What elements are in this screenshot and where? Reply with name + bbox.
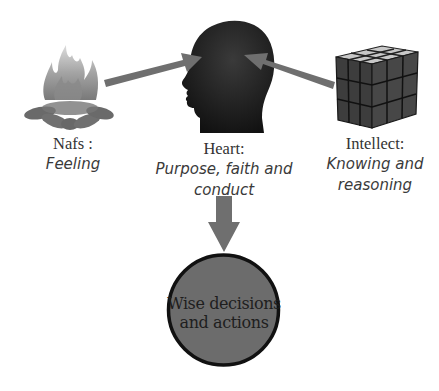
rubiks-cube-icon [336,46,418,128]
outcome-label: Wise decisions and actions [167,294,281,332]
diagram-canvas: Nafs : Feeling Heart: Purpose, faith and… [0,0,439,391]
heart-subtitle-line2: conduct [154,180,294,201]
heart-subtitle-line1: Purpose, faith and [154,159,294,180]
outcome-line1: Wise decisions [167,294,281,313]
outcome-line2: and actions [167,313,281,332]
nafs-subtitle: Feeling [23,154,123,175]
heart-title: Heart: [154,139,294,159]
intellect-subtitle-line2: reasoning [320,175,430,196]
intellect-title: Intellect: [320,134,430,154]
arrow-heart-to-outcome [208,196,240,252]
nafs-label: Nafs : Feeling [23,134,123,175]
head-silhouette-icon [182,21,274,133]
intellect-label: Intellect: Knowing and reasoning [320,134,430,196]
campfire-icon [23,45,115,131]
intellect-subtitle-line1: Knowing and [320,154,430,175]
heart-label: Heart: Purpose, faith and conduct [154,139,294,201]
nafs-title: Nafs : [23,134,123,154]
